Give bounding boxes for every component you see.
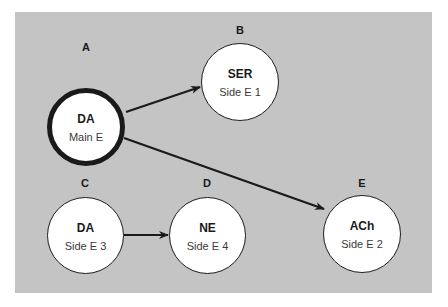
node-e: ACh Side E 2 (323, 195, 401, 273)
node-d-letter: D (197, 177, 217, 189)
edge-a-to-e (124, 138, 324, 209)
node-d-sub: Side E 4 (187, 240, 229, 253)
edge-a-to-b (126, 87, 200, 112)
node-e-name: ACh (350, 219, 375, 233)
node-a-sub: Main E (69, 131, 103, 144)
node-b-sub: Side E 1 (219, 86, 261, 99)
node-b-letter: B (230, 24, 250, 36)
node-a-letter: A (76, 41, 96, 53)
node-b: SER Side E 1 (201, 43, 279, 121)
node-d-name: NE (199, 221, 216, 235)
node-c-sub: Side E 3 (65, 240, 107, 253)
node-a-name: DA (77, 112, 94, 126)
node-e-letter: E (352, 177, 372, 189)
node-c-name: DA (77, 221, 94, 235)
node-a: DA Main E (47, 88, 125, 166)
node-e-sub: Side E 2 (341, 238, 383, 251)
node-c-letter: C (75, 177, 95, 189)
node-d: NE Side E 4 (169, 197, 246, 274)
node-b-name: SER (228, 67, 253, 81)
node-c: DA Side E 3 (47, 197, 124, 274)
